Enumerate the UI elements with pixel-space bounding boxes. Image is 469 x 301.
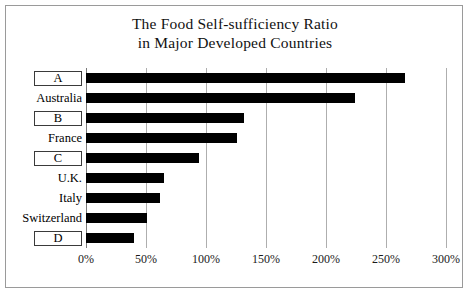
x-tick-label: 100% [192,252,220,267]
bar-a [86,73,405,83]
category-axis-labels: AAustraliaBFranceCU.K.ItalySwitzerlandD [6,68,86,248]
category-label-australia: Australia [36,88,86,108]
chart-title-line-2: in Major Developed Countries [6,33,464,52]
category-label-b: B [34,108,86,128]
category-label-c: C [34,148,86,168]
category-text: Australia [36,88,86,108]
bar-row [86,128,446,148]
boxed-category-text: B [34,111,82,126]
bar-australia [86,93,355,103]
bar-row [86,188,446,208]
chart-screenshot: The Food Self-sufficiency Ratio in Major… [0,0,469,301]
x-tick-label: 50% [135,252,157,267]
boxed-category-text: A [34,71,82,86]
category-label-d: D [34,228,86,248]
x-tick-label: 0% [78,252,94,267]
category-label-a: A [34,68,86,88]
x-tick-label: 250% [372,252,400,267]
chart-frame: The Food Self-sufficiency Ratio in Major… [5,5,463,288]
chart-title: The Food Self-sufficiency Ratio in Major… [6,14,464,52]
bar-row [86,148,446,168]
category-label-u-k: U.K. [58,168,86,188]
x-tick-label: 150% [252,252,280,267]
bar-row [86,168,446,188]
category-text: France [48,128,86,148]
bar-b [86,113,244,123]
bar-row [86,68,446,88]
bar-c [86,153,199,163]
bar-switzerland [86,213,147,223]
bar-d [86,233,134,243]
category-text: Switzerland [22,208,86,228]
category-label-italy: Italy [59,188,86,208]
bar-row [86,208,446,228]
x-tick-label: 200% [312,252,340,267]
x-tick-label: 300% [432,252,460,267]
gridline-300% [446,68,447,248]
boxed-category-text: D [34,231,82,246]
bar-row [86,88,446,108]
bar-row [86,108,446,128]
bar-u-k [86,173,164,183]
category-text: U.K. [58,168,86,188]
bar-italy [86,193,160,203]
category-label-france: France [48,128,86,148]
category-label-switzerland: Switzerland [22,208,86,228]
category-text: Italy [59,188,86,208]
boxed-category-text: C [34,151,82,166]
chart-title-line-1: The Food Self-sufficiency Ratio [6,14,464,33]
bar-row [86,228,446,248]
plot-area: 0%50%100%150%200%250%300% [86,68,446,248]
bar-france [86,133,237,143]
